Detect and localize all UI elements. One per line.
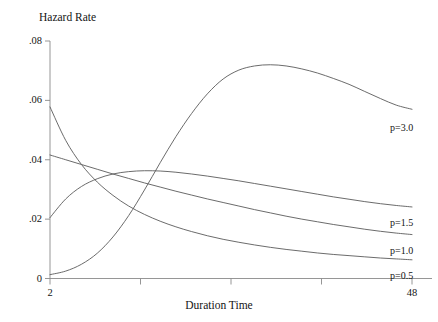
curve-p30 <box>50 65 412 275</box>
curve-p10 <box>50 155 412 235</box>
y-tick-label: .06 <box>16 95 42 106</box>
y-tick-label: 0 <box>16 274 42 285</box>
x-tick-label: 48 <box>407 288 418 299</box>
y-tick-label: .04 <box>16 155 42 166</box>
series-label-p15: p=1.5 <box>390 218 413 228</box>
y-tick-label: .08 <box>16 36 42 47</box>
hazard-rate-chart: Hazard Rate Duration Time .08.06.04.0202… <box>0 0 438 322</box>
y-tick-label: .02 <box>16 214 42 225</box>
plot-area <box>0 0 438 322</box>
series-label-p05: p=0.5 <box>390 271 413 281</box>
series-label-p10: p=1.0 <box>390 246 413 256</box>
x-tick-label: 2 <box>47 288 52 299</box>
series-label-p30: p=3.0 <box>390 123 413 133</box>
series-curves <box>50 65 412 275</box>
curve-p05 <box>50 107 412 260</box>
curve-p15 <box>50 171 412 218</box>
